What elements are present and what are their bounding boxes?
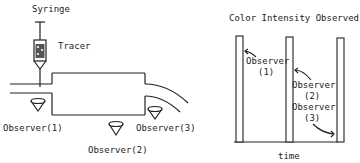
eye-icon	[109, 122, 123, 136]
tracer-label: Tracer	[58, 41, 91, 51]
annotation-observer-1-num: (1)	[258, 67, 274, 77]
arrow-icon	[295, 70, 311, 80]
annotation-observer-2-num: (2)	[304, 91, 320, 101]
eye-icon	[31, 99, 45, 112]
intensity-plot: Color Intensity Observed Observer (1) Ob…	[229, 13, 359, 161]
figure-canvas: Syringe Tracer Observer(1) Observer(2) O…	[0, 0, 360, 163]
annotation-observer-3: Observer	[292, 102, 336, 112]
arrow-icon	[313, 124, 334, 134]
annotation-observer-2: Observer	[292, 80, 336, 90]
annotation-observer-3-num: (3)	[304, 113, 320, 123]
observer-1-label: Observer(1)	[3, 123, 63, 133]
syringe-icon	[34, 22, 46, 87]
eye-icon	[148, 107, 162, 120]
plot-title: Color Intensity Observed	[229, 13, 359, 23]
observer-3-label: Observer(3)	[136, 123, 196, 133]
observer-3-bar	[337, 38, 344, 142]
annotation-observer-1: Observer	[246, 56, 290, 66]
x-axis-label: time	[278, 151, 300, 161]
observer-1-bar	[236, 36, 243, 142]
observer-2-label: Observer(2)	[88, 145, 148, 155]
flow-apparatus: Syringe Tracer Observer(1) Observer(2) O…	[3, 4, 196, 155]
syringe-label: Syringe	[32, 4, 70, 14]
